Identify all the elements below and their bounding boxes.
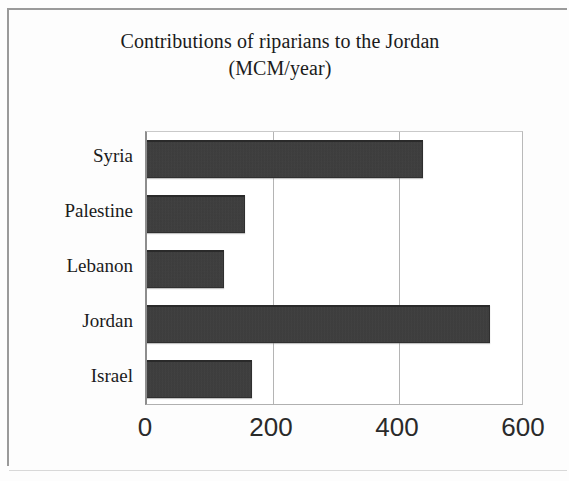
- chart-title-line-1: Contributions of riparians to the Jordan: [30, 28, 530, 55]
- x-tick-label-400: 400: [357, 412, 437, 443]
- page-border-bottom: [9, 470, 567, 471]
- bar-row: [147, 360, 525, 398]
- scanned-figure-page: Contributions of riparians to the Jordan…: [0, 0, 569, 481]
- bar-palestine: [147, 195, 245, 233]
- chart-title-line-2: (MCM/year): [30, 55, 530, 82]
- chart-title: Contributions of riparians to the Jordan…: [30, 28, 530, 82]
- bar-jordan: [147, 305, 490, 343]
- x-tick-label-0: 0: [105, 412, 185, 443]
- bar-row: [147, 250, 525, 288]
- value-axis-tick-labels: 0200400600: [0, 412, 569, 452]
- bar-row: [147, 305, 525, 343]
- category-label-israel: Israel: [0, 365, 133, 387]
- category-label-jordan: Jordan: [0, 310, 133, 332]
- bar-israel: [147, 360, 252, 398]
- category-label-syria: Syria: [0, 145, 133, 167]
- plot-area: [145, 131, 523, 405]
- bar-row: [147, 195, 525, 233]
- bar-row: [147, 140, 525, 178]
- category-label-lebanon: Lebanon: [0, 255, 133, 277]
- x-tick-label-200: 200: [231, 412, 311, 443]
- x-tick-label-600: 600: [483, 412, 563, 443]
- category-axis-labels: SyriaPalestineLebanonJordanIsrael: [0, 131, 133, 405]
- bar-lebanon: [147, 250, 224, 288]
- category-label-palestine: Palestine: [0, 200, 133, 222]
- bar-syria: [147, 140, 423, 178]
